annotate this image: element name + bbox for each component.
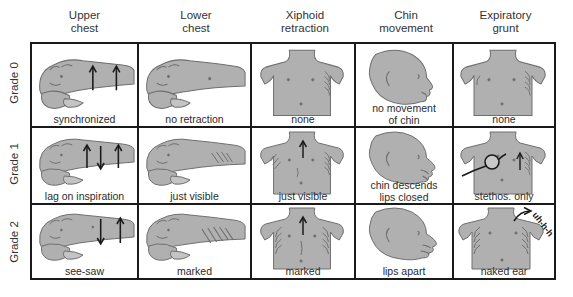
cell-grade2-xiphoid-retraction: marked <box>252 205 356 278</box>
cell-grade2-lower-chest: marked <box>139 205 252 278</box>
caption-grade2-lower-chest: marked <box>139 266 250 278</box>
cell-grade1-upper-chest: lag on inspiration <box>32 128 139 203</box>
column-header-chin-movement: Chin movement <box>357 4 455 40</box>
cell-grade0-expiratory-grunt: none <box>454 44 554 126</box>
cell-grade2-expiratory-grunt: uh-h-h naked ear <box>454 205 554 278</box>
column-header-expiratory-grunt-line1: Expiratory <box>480 9 532 22</box>
silverman-andersen-score-chart: Upper chest Lower chest Xiphoid retracti… <box>0 0 573 297</box>
caption-grade1-chin-movement: chin descends lips closed <box>356 180 452 203</box>
grid-row-grade-1: lag on inspiration <box>32 126 554 205</box>
caption-grade0-chin-movement: no movement of chin <box>356 103 452 126</box>
row-label-grade-0-text: Grade 0 <box>8 62 20 104</box>
row-label-grade-2: Grade 2 <box>0 203 28 280</box>
column-header-xiphoid-retraction-line1: Xiphoid <box>286 9 324 22</box>
grid-row-grade-2: see-saw <box>32 205 554 278</box>
column-header-chin-movement-line2: movement <box>379 22 433 35</box>
caption-grade1-chin-movement-line1: chin descends <box>356 180 452 192</box>
column-header-lower-chest-line2: chest <box>182 22 210 35</box>
caption-grade2-xiphoid-retraction: marked <box>252 266 354 278</box>
caption-grade0-expiratory-grunt: none <box>454 114 554 126</box>
cell-grade1-lower-chest: just visible <box>139 128 252 203</box>
row-label-grade-0: Grade 0 <box>0 42 28 124</box>
column-header-upper-chest: Upper chest <box>30 4 139 40</box>
grid-row-grade-0: synchronized <box>32 44 554 126</box>
caption-grade1-expiratory-grunt: stethos. only <box>454 191 554 203</box>
column-header-expiratory-grunt: Expiratory grunt <box>455 4 556 40</box>
caption-grade0-chin-movement-line2: of chin <box>356 115 452 127</box>
cell-grade0-xiphoid-retraction: none <box>252 44 356 126</box>
cell-grade1-xiphoid-retraction: just visible <box>252 128 356 203</box>
cell-grade2-chin-movement: lips apart <box>356 205 454 278</box>
column-header-lower-chest: Lower chest <box>139 4 253 40</box>
caption-grade0-chin-movement-line1: no movement <box>356 103 452 115</box>
row-label-grade-1-text: Grade 1 <box>8 143 20 185</box>
caption-grade0-upper-chest: synchronized <box>32 114 137 126</box>
row-label-grade-1: Grade 1 <box>0 124 28 203</box>
cell-grade0-chin-movement: no movement of chin <box>356 44 454 126</box>
cell-grade1-expiratory-grunt: stethos. only <box>454 128 554 203</box>
cell-grade0-lower-chest: no retraction <box>139 44 252 126</box>
column-header-xiphoid-retraction: Xiphoid retraction <box>253 4 357 40</box>
cell-grade2-upper-chest: see-saw <box>32 205 139 278</box>
column-header-upper-chest-line1: Upper <box>69 9 100 22</box>
caption-grade1-lower-chest: just visible <box>139 191 250 203</box>
caption-grade1-xiphoid-retraction: just visible <box>252 191 354 203</box>
column-header-chin-movement-line1: Chin <box>394 9 418 22</box>
caption-grade2-upper-chest: see-saw <box>32 266 137 278</box>
column-header-upper-chest-line2: chest <box>71 22 99 35</box>
cell-grade1-chin-movement: chin descends lips closed <box>356 128 454 203</box>
caption-grade1-chin-movement-line2: lips closed <box>356 192 452 204</box>
column-header-xiphoid-retraction-line2: retraction <box>281 22 329 35</box>
column-header-expiratory-grunt-line2: grunt <box>492 22 518 35</box>
caption-grade1-upper-chest: lag on inspiration <box>32 191 137 203</box>
column-header-lower-chest-line1: Lower <box>180 9 211 22</box>
caption-grade0-xiphoid-retraction: none <box>252 114 354 126</box>
caption-grade2-chin-movement: lips apart <box>356 266 452 278</box>
score-grid: synchronized <box>30 42 556 280</box>
cell-grade0-upper-chest: synchronized <box>32 44 139 126</box>
column-header-row: Upper chest Lower chest Xiphoid retracti… <box>30 4 556 40</box>
caption-grade2-expiratory-grunt: naked ear <box>454 266 554 278</box>
row-label-grade-2-text: Grade 2 <box>8 221 20 263</box>
caption-grade0-lower-chest: no retraction <box>139 114 250 126</box>
